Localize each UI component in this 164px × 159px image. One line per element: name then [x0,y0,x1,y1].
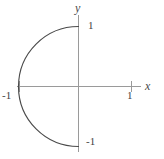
x-tick-label-positive-one: 1 [127,90,133,101]
plot-canvas [0,0,164,159]
y-tick-label-positive-one: 1 [88,20,94,31]
y-axis-label: y [75,2,80,14]
x-axis-label: x [145,80,150,92]
x-tick-label-negative-one: -1 [2,90,11,101]
y-tick-label-negative-one: -1 [86,136,95,147]
semicircle-plot-figure: y x 1 -1 -1 1 [0,0,164,159]
